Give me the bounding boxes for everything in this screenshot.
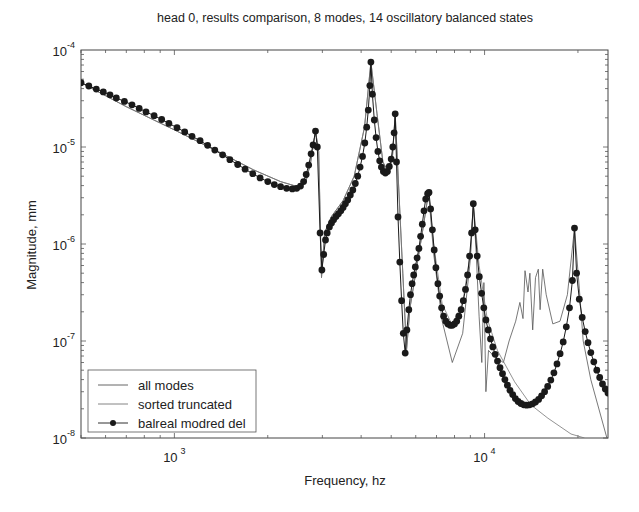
data-point [234,161,241,168]
data-point [431,247,438,254]
data-point [389,144,396,151]
data-point [582,328,589,335]
data-point [322,237,329,244]
data-point [476,273,483,280]
data-point [189,133,196,140]
data-point [249,170,256,177]
data-point [412,264,419,271]
chart: head 0, results comparison, 8 modes, 14 … [0,0,639,512]
data-point [151,112,158,119]
data-point [409,280,416,287]
data-point [494,358,501,365]
series-line [81,62,608,405]
data-point [211,147,218,154]
y-tick-label: 10 [53,238,67,253]
data-point [436,293,443,300]
data-point [458,306,465,313]
data-point [421,207,428,214]
data-point [78,79,85,86]
data-point [485,327,492,334]
data-point [472,226,479,233]
data-point [359,153,366,160]
data-point [579,314,586,321]
data-point [320,251,327,258]
y-tick-label: 10 [53,141,67,156]
data-point [435,280,442,287]
data-point [410,272,417,279]
data-point [404,327,411,334]
chart-title: head 0, results comparison, 8 modes, 14 … [157,11,533,25]
data-point [590,358,597,365]
x-axis-label: Frequency, hz [304,473,385,488]
data-point [396,259,403,266]
data-point [460,297,467,304]
data-point [219,151,226,158]
data-point [576,296,583,303]
legend: all modessorted truncatedbalreal modred … [88,370,256,432]
data-point [354,173,361,180]
data-point [487,336,494,343]
data-point [492,351,499,358]
data-point [107,91,114,98]
data-point [573,270,580,277]
legend-marker [110,420,116,426]
y-tick-label: 10 [53,432,67,447]
data-point [85,83,92,90]
data-point [391,129,398,136]
data-point [349,187,356,194]
data-point [375,148,382,155]
data-point [319,267,326,274]
data-point [569,277,576,284]
data-point [497,364,504,371]
y-tick-exponent: -6 [67,234,75,244]
y-tick-label: 10 [53,335,67,350]
y-tick-exponent: -5 [67,137,75,147]
data-point [227,156,234,163]
data-point [100,89,107,96]
data-point [398,297,405,304]
data-point [392,110,399,117]
legend-label: balreal modred del [138,416,246,431]
data-point [386,163,393,170]
x-axis: 103104 [163,446,495,465]
data-point [419,221,426,228]
data-point [405,306,412,313]
data-point [367,82,374,89]
data-point [560,339,567,346]
data-point [143,109,150,116]
data-point [483,317,490,324]
data-point [427,206,434,213]
data-point [113,95,120,102]
data-point [587,349,594,356]
data-point [470,200,477,207]
x-tick-label: 10 [473,450,487,465]
series-balreal-modred-del [78,59,612,409]
data-point [136,105,143,112]
x-tick-exponent: 3 [180,446,185,456]
data-point [478,290,485,297]
data-point [474,253,481,260]
data-point [554,361,561,368]
data-point [438,304,445,311]
x-tick-exponent: 4 [491,446,496,456]
data-point [585,339,592,346]
y-tick-label: 10 [53,44,67,59]
legend-label: sorted truncated [138,397,232,412]
data-point [264,178,271,185]
data-point [407,291,414,298]
data-point [242,166,249,173]
data-point [376,157,383,164]
data-point [402,350,409,357]
data-point [455,313,462,320]
data-point [308,150,315,157]
data-point [317,230,324,237]
data-point [563,323,570,330]
data-point [429,226,436,233]
data-point [312,128,319,135]
y-axis: 10-410-510-610-710-8 [53,40,75,447]
data-point [121,98,128,105]
data-point [257,175,264,182]
legend-label: all modes [138,378,194,393]
data-point [271,181,278,188]
x-tick-label: 10 [163,450,177,465]
